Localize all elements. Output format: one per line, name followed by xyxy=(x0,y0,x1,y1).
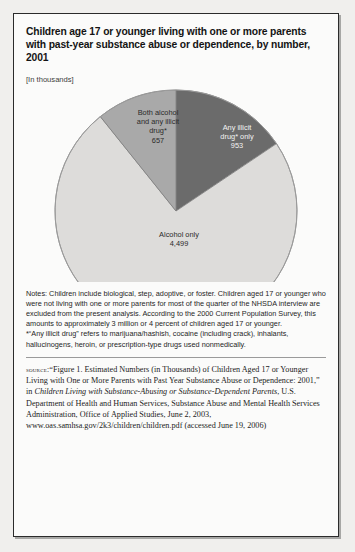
figure-page: Children age 17 or younger living with o… xyxy=(0,0,355,552)
pie-label-illicit-line2: drug* only xyxy=(201,132,273,141)
source-section: source:“Figure 1. Estimated Numbers (in … xyxy=(26,364,326,432)
source-text: source:“Figure 1. Estimated Numbers (in … xyxy=(26,364,326,432)
pie-chart: Any illicit drug* only 953 Both alcohol … xyxy=(26,88,326,284)
units-note: [In thousands] xyxy=(26,75,326,84)
pie-label-alcohol-only: Alcohol only 4,499 xyxy=(134,230,224,249)
figure-frame: Children age 17 or younger living with o… xyxy=(13,13,339,537)
pie-label-alcohol-line1: Alcohol only xyxy=(134,230,224,239)
pie-label-both: Both alcohol and any illicit drug* 657 xyxy=(121,108,195,145)
figure-content: Children age 17 or younger living with o… xyxy=(14,14,338,536)
pie-label-both-line1: Both alcohol xyxy=(121,108,195,117)
pie-label-both-value: 657 xyxy=(121,136,195,145)
pie-label-illicit-only: Any illicit drug* only 953 xyxy=(201,123,273,151)
notes-paragraph-2: *“Any illicit drug” refers to marijuana/… xyxy=(26,329,326,349)
notes-paragraph-1: Notes: Children include biological, step… xyxy=(26,289,326,330)
pie-label-both-line3: drug* xyxy=(121,126,195,135)
source-label: source: xyxy=(26,365,49,374)
notes-section: Notes: Children include biological, step… xyxy=(26,289,326,350)
pie-label-alcohol-value: 4,499 xyxy=(134,239,224,248)
pie-label-illicit-line1: Any illicit xyxy=(201,123,273,132)
section-divider xyxy=(26,357,326,358)
page-title: Children age 17 or younger living with o… xyxy=(26,25,326,65)
pie-label-both-line2: and any illicit xyxy=(121,117,195,126)
source-italic-title: Children Living with Substance-Abusing o… xyxy=(34,387,277,396)
pie-label-illicit-value: 953 xyxy=(201,141,273,150)
